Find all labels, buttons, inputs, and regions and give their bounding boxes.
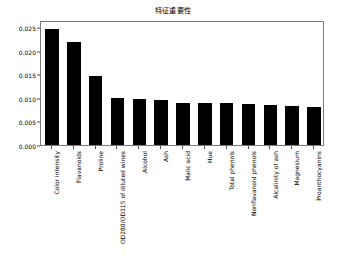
y-axis: 0.0000.0050.0100.0150.0200.025	[0, 21, 40, 146]
x-axis-tick-label: Malic acid	[184, 151, 191, 181]
bar	[45, 29, 59, 145]
x-axis: Color intensityFlavanoidsProlineOD280/OD…	[40, 146, 324, 271]
bar	[89, 76, 103, 145]
bar	[154, 100, 168, 145]
bar	[285, 106, 299, 145]
x-axis-tick-label: Hue	[206, 151, 213, 163]
bar	[67, 42, 81, 145]
x-axis-tick-label: Ash	[162, 151, 169, 162]
y-axis-tick-label: 0.015	[19, 72, 36, 79]
x-axis-tick-label: Magnesium	[293, 151, 300, 186]
x-axis-tick-label: Color intensity	[53, 151, 60, 195]
x-axis-tick-mark	[116, 146, 117, 149]
bar	[198, 103, 212, 145]
x-axis-tick-label: Flavanoids	[75, 151, 82, 183]
bar	[307, 107, 321, 145]
x-axis-tick-mark	[138, 146, 139, 149]
x-axis-tick-label: Alcalinity of ash	[272, 151, 279, 199]
bar	[220, 103, 234, 145]
x-axis-tick-mark	[73, 146, 74, 149]
x-axis-tick-mark	[291, 146, 292, 149]
x-axis-tick-label: Alcohol	[141, 151, 148, 173]
feature-importance-chart: 特征重要性 0.0000.0050.0100.0150.0200.025 Col…	[0, 0, 346, 273]
x-axis-tick-label: Nonflavanoid phenols	[250, 151, 257, 216]
x-axis-tick-label: Total phenols	[228, 151, 235, 191]
x-axis-tick-mark	[160, 146, 161, 149]
x-axis-tick-mark	[182, 146, 183, 149]
y-axis-tick-label: 0.025	[19, 25, 36, 32]
x-axis-tick-label: OD280/OD315 of diluted wines	[119, 151, 126, 244]
bar	[264, 105, 278, 145]
y-axis-tick-label: 0.005	[19, 119, 36, 126]
bar	[176, 103, 190, 145]
plot-area	[40, 21, 324, 146]
y-axis-tick-label: 0.010	[19, 95, 36, 102]
x-axis-tick-mark	[51, 146, 52, 149]
x-axis-tick-mark	[269, 146, 270, 149]
bar	[111, 98, 125, 145]
x-axis-tick-mark	[248, 146, 249, 149]
chart-title: 特征重要性	[0, 6, 346, 16]
bar	[133, 99, 147, 145]
x-axis-tick-mark	[313, 146, 314, 149]
x-axis-tick-mark	[204, 146, 205, 149]
bars-layer	[41, 22, 323, 145]
bar	[242, 104, 256, 145]
x-axis-tick-mark	[226, 146, 227, 149]
y-axis-tick-label: 0.000	[19, 143, 36, 150]
y-axis-tick-label: 0.020	[19, 48, 36, 55]
x-axis-tick-mark	[95, 146, 96, 149]
x-axis-tick-label: Proline	[97, 151, 104, 171]
x-axis-tick-label: Proanthocyanins	[315, 151, 322, 201]
